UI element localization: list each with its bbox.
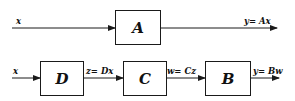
block-C: C <box>123 61 167 96</box>
block-D: D <box>40 61 84 96</box>
edge-label-y: y= Bw <box>253 67 283 76</box>
top-output-label: y= Ax <box>244 17 271 26</box>
block-B: B <box>205 61 251 96</box>
block-A: A <box>115 10 161 45</box>
edge-label-z: z= Dx <box>86 67 113 76</box>
edge-label-w: w= Cz <box>167 67 196 76</box>
bottom-input-label: x <box>13 67 18 76</box>
block-diagram: x A y= Ax x D z= Dx C w= Cz B y= Bw <box>0 0 295 101</box>
top-input-label: x <box>16 17 21 26</box>
